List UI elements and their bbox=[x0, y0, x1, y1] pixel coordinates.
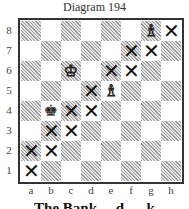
square-e4 bbox=[101, 101, 121, 121]
cross-mark-icon: ✕ bbox=[103, 61, 120, 81]
square-d2 bbox=[81, 141, 101, 161]
square-c1 bbox=[61, 161, 81, 181]
square-f8 bbox=[121, 21, 141, 41]
square-a4 bbox=[21, 101, 41, 121]
white-king-icon: ♔ bbox=[64, 61, 78, 81]
rank-label: 3 bbox=[4, 120, 14, 140]
square-b1 bbox=[41, 161, 61, 181]
cross-mark-icon: ✕ bbox=[63, 101, 80, 121]
rank-labels: 8 7 6 5 4 3 2 1 bbox=[4, 20, 14, 180]
square-g6 bbox=[141, 61, 161, 81]
square-c7 bbox=[61, 41, 81, 61]
rank-label: 8 bbox=[4, 20, 14, 40]
white-bishop-icon: ♗ bbox=[144, 21, 158, 41]
square-e7 bbox=[101, 41, 121, 61]
file-label: g bbox=[141, 184, 161, 196]
cross-mark-icon: ✕ bbox=[43, 141, 60, 161]
rank-label: 5 bbox=[4, 80, 14, 100]
file-label: d bbox=[81, 184, 101, 196]
square-b4: ♚ bbox=[41, 101, 61, 121]
square-f2 bbox=[121, 141, 141, 161]
square-g7: ✕ bbox=[141, 41, 161, 61]
square-d3 bbox=[81, 121, 101, 141]
square-e3 bbox=[101, 121, 121, 141]
square-d6 bbox=[81, 61, 101, 81]
square-g1 bbox=[141, 161, 161, 181]
rank-label: 6 bbox=[4, 60, 14, 80]
white-bishop-icon: ♗ bbox=[104, 81, 118, 101]
square-a1: ✕ bbox=[21, 161, 41, 181]
square-b7 bbox=[41, 41, 61, 61]
board-grid: ♗✕✕✕♔✕✕✕♗♚✕✕✕✕✕✕✕ bbox=[21, 21, 181, 181]
cross-mark-icon: ✕ bbox=[83, 81, 100, 101]
square-h4 bbox=[161, 101, 181, 121]
square-e2 bbox=[101, 141, 121, 161]
square-a8 bbox=[21, 21, 41, 41]
square-f1 bbox=[121, 161, 141, 181]
rank-label: 4 bbox=[4, 100, 14, 120]
square-c3: ✕ bbox=[61, 121, 81, 141]
cross-mark-icon: ✕ bbox=[63, 121, 80, 141]
square-c8 bbox=[61, 21, 81, 41]
cross-mark-icon: ✕ bbox=[23, 141, 40, 161]
square-h3 bbox=[161, 121, 181, 141]
file-label: e bbox=[101, 184, 121, 196]
cross-mark-icon: ✕ bbox=[143, 41, 160, 61]
square-e5: ♗ bbox=[101, 81, 121, 101]
file-label: h bbox=[161, 184, 181, 196]
square-h1 bbox=[161, 161, 181, 181]
square-g5 bbox=[141, 81, 161, 101]
cross-mark-icon: ✕ bbox=[163, 21, 180, 41]
square-f3 bbox=[121, 121, 141, 141]
square-c4: ✕ bbox=[61, 101, 81, 121]
square-d4: ✕ bbox=[81, 101, 101, 121]
square-b2: ✕ bbox=[41, 141, 61, 161]
square-e1 bbox=[101, 161, 121, 181]
square-b3: ✕ bbox=[41, 121, 61, 141]
diagram-caption: The Bank… d … k bbox=[0, 199, 189, 209]
cross-mark-icon: ✕ bbox=[43, 121, 60, 141]
square-f5 bbox=[121, 81, 141, 101]
chess-board: ♗✕✕✕♔✕✕✕♗♚✕✕✕✕✕✕✕ bbox=[18, 18, 184, 184]
square-a6 bbox=[21, 61, 41, 81]
square-d5: ✕ bbox=[81, 81, 101, 101]
square-a5 bbox=[21, 81, 41, 101]
rank-label: 7 bbox=[4, 40, 14, 60]
rank-label: 2 bbox=[4, 140, 14, 160]
diagram-title: Diagram 194 bbox=[0, 0, 189, 14]
square-d7 bbox=[81, 41, 101, 61]
file-labels: a b c d e f g h bbox=[21, 184, 181, 196]
square-h6 bbox=[161, 61, 181, 81]
cross-mark-icon: ✕ bbox=[123, 61, 140, 81]
square-b8 bbox=[41, 21, 61, 41]
square-a7 bbox=[21, 41, 41, 61]
square-a2: ✕ bbox=[21, 141, 41, 161]
square-d8 bbox=[81, 21, 101, 41]
square-h8: ✕ bbox=[161, 21, 181, 41]
square-b5 bbox=[41, 81, 61, 101]
square-f7: ✕ bbox=[121, 41, 141, 61]
file-label: b bbox=[41, 184, 61, 196]
cross-mark-icon: ✕ bbox=[83, 101, 100, 121]
square-g8: ♗ bbox=[141, 21, 161, 41]
square-h7 bbox=[161, 41, 181, 61]
square-c2 bbox=[61, 141, 81, 161]
cross-mark-icon: ✕ bbox=[23, 161, 40, 181]
black-king-icon: ♚ bbox=[44, 101, 58, 121]
square-g3 bbox=[141, 121, 161, 141]
square-e8 bbox=[101, 21, 121, 41]
file-label: f bbox=[121, 184, 141, 196]
square-b6 bbox=[41, 61, 61, 81]
square-g4 bbox=[141, 101, 161, 121]
square-a3 bbox=[21, 121, 41, 141]
square-d1 bbox=[81, 161, 101, 181]
square-f6: ✕ bbox=[121, 61, 141, 81]
square-f4 bbox=[121, 101, 141, 121]
cross-mark-icon: ✕ bbox=[123, 41, 140, 61]
square-g2 bbox=[141, 141, 161, 161]
square-h5 bbox=[161, 81, 181, 101]
square-c5 bbox=[61, 81, 81, 101]
file-label: c bbox=[61, 184, 81, 196]
rank-label: 1 bbox=[4, 160, 14, 180]
square-c6: ♔ bbox=[61, 61, 81, 81]
